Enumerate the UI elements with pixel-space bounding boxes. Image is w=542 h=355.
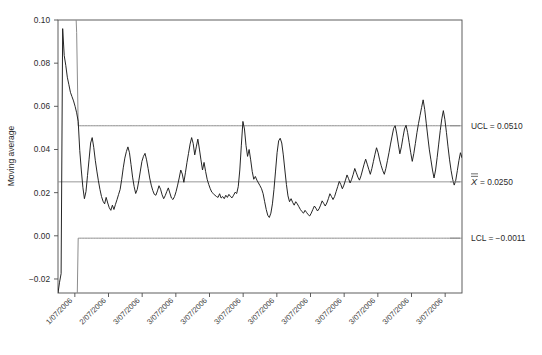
y-tick-label: 0.08 xyxy=(34,58,51,68)
y-axis-title: Moving average xyxy=(6,125,16,186)
y-tick-label: 0.02 xyxy=(34,188,51,198)
annotation-label-lcl: LCL = −0.0011 xyxy=(471,233,526,243)
y-tick-label: −0.02 xyxy=(29,274,50,284)
plot-svg: 0.100.080.060.040.020.00−0.02 1/07/20062… xyxy=(0,0,542,355)
y-tick-label: 0.00 xyxy=(34,231,51,241)
y-tick-label: 0.04 xyxy=(34,144,51,154)
y-tick-label: 0.06 xyxy=(34,101,51,111)
svg-text:X: X xyxy=(470,177,478,187)
annotation-label-ucl: UCL = 0.0510 xyxy=(471,121,523,131)
svg-text:= 0.0250: = 0.0250 xyxy=(480,177,513,187)
control-chart: 0.100.080.060.040.020.00−0.02 1/07/20062… xyxy=(0,0,542,355)
y-tick-label: 0.10 xyxy=(34,15,51,25)
